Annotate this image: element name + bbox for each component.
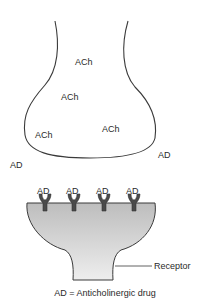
bound-drug-label-1: AD (37, 186, 50, 196)
bound-drug-label-4: AD (126, 186, 139, 196)
bound-drug-label-2: AD (66, 186, 79, 196)
ach-label-1: ACh (75, 57, 93, 67)
free-drug-label-1: AD (10, 160, 23, 170)
synapse-diagram (0, 0, 210, 301)
bound-drug-label-3: AD (96, 186, 109, 196)
ach-label-3: ACh (35, 130, 53, 140)
receptor-label: Receptor (154, 261, 191, 271)
ach-label-4: ACh (102, 124, 120, 134)
free-drug-label-2: AD (158, 150, 171, 160)
ach-label-2: ACh (61, 92, 79, 102)
postsynaptic-cell (27, 203, 156, 280)
legend-caption: AD = Anticholinergic drug (0, 288, 210, 298)
